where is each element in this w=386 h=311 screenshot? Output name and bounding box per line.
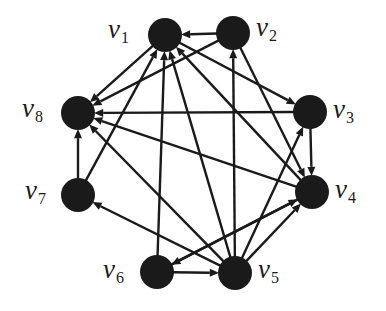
- node-label-v7: v7: [25, 177, 45, 204]
- edge-v5-v1: [168, 50, 230, 257]
- graph-canvas: [0, 0, 386, 311]
- label-subscript: 2: [269, 27, 277, 44]
- arrowhead-icon: [74, 129, 82, 138]
- edge-v7-v1: [86, 49, 158, 181]
- label-subscript: 8: [35, 108, 43, 125]
- arrowhead-icon: [93, 117, 103, 125]
- label-subscript: 6: [116, 269, 124, 286]
- label-base: v: [22, 93, 34, 123]
- graph-node-v8[interactable]: [61, 96, 95, 130]
- edge-shaft: [158, 60, 165, 256]
- edge-v5-v2: [229, 49, 237, 257]
- arrowhead-icon: [307, 167, 315, 176]
- graph-node-v3[interactable]: [293, 95, 327, 129]
- node-label-v2: v2: [256, 14, 276, 41]
- edge-v2-v1: [181, 30, 217, 38]
- arrowhead-icon: [181, 30, 190, 38]
- edge-v3-v4: [307, 128, 315, 176]
- arrowhead-icon: [229, 49, 237, 58]
- edge-shaft: [310, 128, 311, 167]
- arrowhead-icon: [94, 109, 103, 117]
- node-label-v3: v3: [333, 96, 353, 123]
- label-base: v: [103, 254, 115, 284]
- label-base: v: [108, 14, 120, 44]
- graph-node-v1[interactable]: [148, 18, 182, 52]
- node-label-v8: v8: [22, 95, 42, 122]
- edge-v6-v1: [158, 51, 169, 256]
- label-subscript: 4: [348, 189, 356, 206]
- arrowhead-icon: [168, 50, 176, 60]
- edge-v7-v8: [74, 129, 82, 179]
- node-label-v1: v1: [108, 16, 128, 43]
- edge-shaft: [182, 53, 301, 180]
- label-subscript: 5: [271, 269, 279, 286]
- graph-node-v7[interactable]: [61, 178, 95, 212]
- label-base: v: [333, 94, 345, 124]
- arrowhead-icon: [210, 269, 219, 277]
- edge-v4-v8: [93, 117, 297, 187]
- edge-layer: [74, 30, 315, 276]
- label-base: v: [258, 254, 270, 284]
- label-base: v: [25, 175, 37, 205]
- edge-shaft: [190, 33, 217, 34]
- node-label-v5: v5: [258, 256, 278, 283]
- node-label-v4: v4: [335, 176, 355, 203]
- edge-shaft: [242, 135, 300, 259]
- label-subscript: 1: [121, 29, 129, 46]
- graph-node-v5[interactable]: [218, 256, 252, 290]
- edge-shaft: [233, 58, 235, 257]
- graph-node-v4[interactable]: [295, 175, 329, 209]
- edge-shaft: [103, 112, 294, 113]
- label-subscript: 3: [346, 109, 354, 126]
- label-base: v: [335, 174, 347, 204]
- graph-node-v6[interactable]: [140, 255, 174, 289]
- edge-v5-v3: [242, 127, 303, 259]
- arrowhead-icon: [160, 51, 168, 60]
- node-label-v6: v6: [103, 256, 123, 283]
- graph-figure: v1v2v3v4v5v6v7v8: [0, 0, 386, 311]
- graph-node-v2[interactable]: [216, 16, 250, 50]
- edge-shaft: [172, 59, 230, 257]
- label-base: v: [256, 12, 268, 42]
- edge-v6-v5: [173, 269, 219, 277]
- label-subscript: 7: [38, 190, 46, 207]
- edge-v5-v8: [89, 124, 224, 261]
